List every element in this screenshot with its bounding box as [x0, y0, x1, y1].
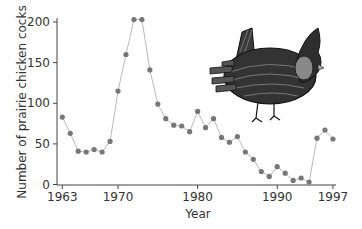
data-point: [187, 129, 192, 134]
prairie-chicken-icon: [210, 28, 324, 122]
x-tick-label: 1980: [182, 190, 213, 204]
x-tick-label: 1963: [47, 190, 78, 204]
data-point: [275, 164, 280, 169]
data-point: [306, 179, 311, 184]
data-point: [131, 17, 136, 22]
data-point: [195, 109, 200, 114]
data-point: [259, 169, 264, 174]
x-ticks: 19631970198019901997: [47, 185, 348, 204]
data-point: [227, 140, 232, 145]
data-point: [60, 114, 65, 119]
data-point: [211, 116, 216, 121]
data-point: [115, 88, 120, 93]
data-point: [163, 116, 168, 121]
data-point: [219, 135, 224, 140]
data-points: [60, 17, 336, 185]
data-point: [139, 17, 144, 22]
data-point: [92, 147, 97, 152]
data-point: [179, 123, 184, 128]
x-tick-label: 1997: [318, 190, 349, 204]
data-point: [243, 149, 248, 154]
data-point: [330, 136, 335, 141]
y-tick-label: 50: [35, 137, 50, 151]
y-tick-label: 100: [27, 96, 50, 110]
data-point: [299, 175, 304, 180]
data-point: [107, 139, 112, 144]
data-point: [203, 125, 208, 130]
data-point: [251, 157, 256, 162]
data-point: [283, 171, 288, 176]
data-point: [68, 131, 73, 136]
x-tick-label: 1990: [262, 190, 293, 204]
data-series: [60, 17, 336, 185]
y-tick-label: 150: [27, 56, 50, 70]
data-point: [76, 149, 81, 154]
data-point: [235, 134, 240, 139]
data-point: [84, 149, 89, 154]
data-point: [314, 136, 319, 141]
data-point: [123, 52, 128, 57]
data-point: [291, 178, 296, 183]
y-tick-label: 200: [27, 15, 50, 29]
data-point: [147, 67, 152, 72]
y-ticks: 050100150200: [27, 15, 57, 192]
prairie-chicken-chart: 050100150200 19631970198019901997 Year N…: [0, 0, 362, 229]
data-point: [100, 149, 105, 154]
data-point: [267, 174, 272, 179]
data-point: [322, 127, 327, 132]
y-axis-title: Number of prairie chicken cocks: [15, 5, 29, 198]
x-axis-title: Year: [184, 207, 210, 221]
axes: 050100150200 19631970198019901997 Year N…: [15, 5, 348, 221]
data-point: [171, 123, 176, 128]
x-tick-label: 1970: [103, 190, 134, 204]
data-point: [155, 101, 160, 106]
